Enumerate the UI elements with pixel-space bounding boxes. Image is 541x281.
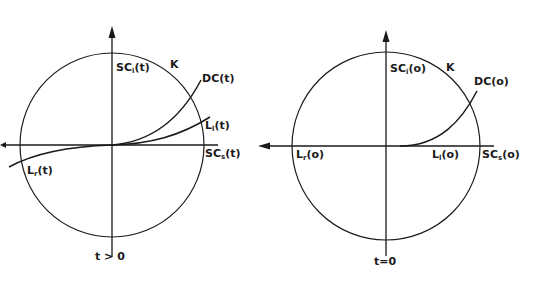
- left-label-k: K: [170, 59, 179, 70]
- left-panel-graphics: [0, 26, 218, 257]
- left-curve-ll: [112, 117, 210, 145]
- right-vertical-arrowhead: [383, 30, 390, 42]
- left-label-lr: Lr(t): [27, 165, 53, 178]
- right-label-lr: Lr(o): [296, 149, 324, 162]
- left-curve-dc: [112, 80, 201, 145]
- right-curve-dc: [400, 91, 477, 146]
- right-label-k: K: [446, 62, 455, 73]
- right-horizontal-arrowhead: [258, 143, 270, 150]
- diagram-drawing: [0, 0, 541, 281]
- right-label-dc: DC(o): [474, 76, 509, 87]
- diagram-stage: SCi(t) K DC(t) Ll(t) SCs(t) Lr(t) t > 0 …: [0, 0, 541, 281]
- right-label-time: t=0: [374, 256, 396, 267]
- left-label-scs: SCs(t): [205, 148, 241, 161]
- left-label-ll: Ll(t): [205, 120, 230, 133]
- left-label-time: t > 0: [95, 251, 125, 262]
- right-panel-graphics: [258, 30, 494, 256]
- left-vertical-arrowhead: [109, 26, 116, 38]
- left-label-dc: DC(t): [202, 73, 235, 84]
- right-label-sci: SCi(o): [390, 63, 426, 76]
- right-label-ll: Ll(o): [432, 149, 459, 162]
- left-horizontal-arrowhead: [0, 142, 6, 148]
- left-curve-lr: [9, 145, 112, 167]
- left-label-sci: SCi(t): [116, 62, 150, 75]
- right-label-scs: SCs(o): [482, 149, 520, 162]
